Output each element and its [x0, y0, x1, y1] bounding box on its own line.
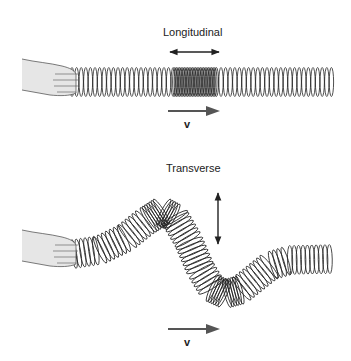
- spring-coil: [297, 68, 301, 97]
- spring-coil: [288, 68, 292, 97]
- spring-coil: [223, 68, 227, 97]
- spring-coil: [166, 68, 170, 97]
- spring-coil: [260, 68, 264, 97]
- spring-coil: [315, 68, 319, 97]
- spring-coil: [157, 68, 161, 97]
- spring-coil: [228, 68, 232, 97]
- spring-coil: [78, 238, 88, 267]
- spring-coil: [148, 68, 152, 97]
- hand-icon: [22, 59, 78, 96]
- spring-coil: [103, 230, 120, 258]
- spring-coil: [91, 236, 101, 265]
- spring-coil: [302, 68, 306, 97]
- spring-coil: [107, 68, 111, 97]
- spring-coil: [320, 68, 324, 97]
- spring-coil: [180, 247, 209, 263]
- spring-coil: [311, 68, 315, 97]
- spring-coil: [125, 68, 129, 97]
- spring-coil: [179, 243, 208, 259]
- longitudinal-spring: [70, 68, 334, 97]
- spring-coil: [325, 68, 329, 97]
- spring-coil: [93, 68, 97, 97]
- spring-coil: [274, 68, 278, 97]
- spring-coil: [283, 68, 287, 97]
- spring-coil: [256, 68, 260, 97]
- spring-coil: [116, 68, 120, 97]
- spring-coil: [265, 68, 269, 97]
- spring-coil: [79, 68, 83, 97]
- velocity-label: v: [184, 118, 191, 130]
- spring-coil: [306, 68, 310, 97]
- longitudinal-title: Longitudinal: [163, 26, 222, 38]
- spring-coil: [184, 255, 213, 271]
- longitudinal-panel: Longitudinal v: [22, 26, 334, 130]
- spring-coil: [102, 68, 106, 97]
- spring-coil: [242, 68, 246, 97]
- spring-coil: [175, 235, 204, 251]
- wave-diagram: Longitudinal v Transverse v: [0, 0, 351, 361]
- hand-icon: [22, 230, 78, 267]
- spring-coil: [82, 237, 92, 266]
- spring-coil: [84, 68, 88, 97]
- spring-coil: [251, 68, 255, 97]
- spring-coil: [134, 68, 138, 97]
- velocity-label: v: [184, 336, 191, 348]
- spring-coil: [185, 259, 214, 275]
- spring-coil: [97, 68, 101, 97]
- spring-coil: [193, 269, 221, 288]
- spring-coil: [233, 68, 237, 97]
- spring-coil: [120, 68, 124, 97]
- spring-coil: [182, 251, 211, 267]
- spring-coil: [279, 68, 283, 97]
- spring-coil: [269, 68, 273, 97]
- transverse-title: Transverse: [166, 162, 221, 174]
- velocity-arrow-icon: [168, 324, 220, 334]
- spring-coil: [130, 68, 134, 97]
- spring-coil: [153, 68, 157, 97]
- spring-coil: [329, 68, 333, 97]
- transverse-panel: Transverse v: [22, 162, 333, 348]
- velocity-arrow-icon: [168, 106, 220, 116]
- spring-coil: [162, 68, 166, 97]
- spring-coil: [177, 239, 206, 255]
- transverse-spring: [69, 198, 332, 308]
- spring-coil: [139, 68, 143, 97]
- spring-coil: [143, 68, 147, 97]
- spring-coil: [292, 68, 296, 97]
- spring-coil: [279, 247, 292, 276]
- spring-coil: [99, 232, 116, 260]
- spring-coil: [246, 68, 250, 97]
- spring-coil: [88, 68, 92, 97]
- spring-coil: [111, 68, 115, 97]
- spring-coil: [237, 68, 241, 97]
- spring-coil: [87, 237, 97, 266]
- spring-coil: [219, 68, 223, 97]
